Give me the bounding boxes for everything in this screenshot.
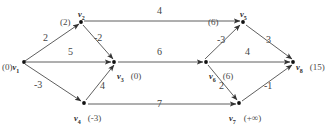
node-dot-v6[interactable] xyxy=(204,60,208,64)
graph-diagram: 2 5 -3 -2 4 4 6 7 -3 3 4 2 -1 (0)v1 (2) … xyxy=(0,0,325,124)
edge-weight-v7-v8: -1 xyxy=(264,81,272,91)
node-name-v1: v1 xyxy=(13,62,20,72)
node-dot-v3[interactable] xyxy=(112,60,116,64)
node-label-v3: v3 (0) xyxy=(117,65,141,83)
edge-weight-v2-v3: -2 xyxy=(94,33,102,43)
node-dist-v1: (0) xyxy=(2,62,13,72)
node-name-v7: v7 xyxy=(229,113,236,123)
node-name-v3: v3 xyxy=(117,71,124,81)
node-label-v7: v7 (+∞) xyxy=(229,107,261,124)
node-dist-v7: (+∞) xyxy=(244,113,262,123)
node-name-v6: v6 xyxy=(209,71,216,81)
node-name-v4: v4 xyxy=(74,113,81,123)
node-name-v2: v2 xyxy=(78,9,85,19)
node-label-v6: v6 (6) xyxy=(209,65,233,83)
edge-weight-v2-v5: 4 xyxy=(157,6,162,16)
edge-weight-v1-v3: 5 xyxy=(68,47,73,57)
node-dist-v8: (15) xyxy=(310,62,325,72)
node-name-v8: v8 xyxy=(296,62,303,72)
edge-weight-v4-v7: 7 xyxy=(157,99,162,109)
edge-weight-v6-v8: 4 xyxy=(245,47,250,57)
node-dot-v1[interactable] xyxy=(22,60,26,64)
node-name-wrap-v5: v5 xyxy=(240,3,247,21)
node-dist-v6: (6) xyxy=(223,71,234,81)
node-label-v4: v4 (-3) xyxy=(74,107,101,124)
node-dot-v8[interactable] xyxy=(291,60,295,64)
edge-weight-v4-v3: 4 xyxy=(100,81,105,91)
node-label-v2: (2) xyxy=(60,11,71,29)
node-dist-v4: (-3) xyxy=(88,113,102,123)
edge-weight-v6-v5: -3 xyxy=(217,35,225,45)
node-label-v1: (0)v1 xyxy=(2,56,19,74)
edge-weight-v1-v2: 2 xyxy=(43,33,48,43)
node-dist-v3: (0) xyxy=(131,71,142,81)
edge-weight-v1-v4: -3 xyxy=(34,80,42,90)
edge-weight-v3-v6: 6 xyxy=(157,47,162,57)
edge-weight-v5-v8: 3 xyxy=(266,35,271,45)
node-dot-v7[interactable] xyxy=(237,101,241,105)
node-label-v8: v8 (15) xyxy=(296,56,325,74)
node-dot-v4[interactable] xyxy=(82,101,86,105)
node-dist-v5: (6) xyxy=(208,17,219,27)
node-name-v5: v5 xyxy=(240,9,247,19)
node-label-v5: (6) xyxy=(208,11,219,29)
node-dist-v2: (2) xyxy=(60,17,71,27)
graph-edges-layer xyxy=(0,0,325,124)
node-name-wrap-v2: v2 xyxy=(78,3,85,21)
